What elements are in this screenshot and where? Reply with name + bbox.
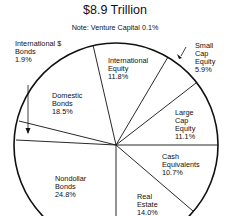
label-cash-equivalents: Cash Equivalents 10.7% xyxy=(162,153,200,177)
arrow-icon xyxy=(26,128,31,134)
label-real-estate: Real Estate 14.0% xyxy=(137,193,158,216)
label-international-bonds: International $ Bonds 1.9% xyxy=(15,40,61,64)
label-nondollar-bonds: Nondollar Bonds 24.8% xyxy=(55,175,86,199)
label-small-cap-equity: Small Cap Equity 5.9% xyxy=(195,42,215,74)
label-domestic-bonds: Domestic Bonds 18.5% xyxy=(52,92,82,116)
label-large-cap-equity: Large Cap Equity 11.1% xyxy=(175,109,195,141)
label-international-equity: International Equity 11.8% xyxy=(108,57,148,81)
pie-chart xyxy=(0,0,230,216)
small-cap-pointer xyxy=(181,47,186,56)
